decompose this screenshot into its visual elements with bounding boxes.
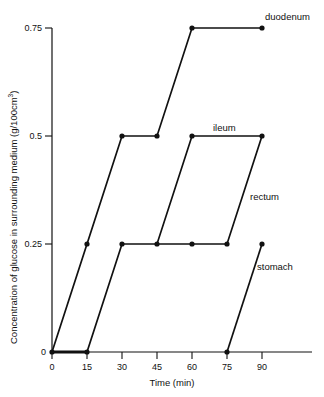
marker-stomach [224,349,229,354]
y-axis-title-tail: ) [8,91,19,94]
x-tick-label-45: 45 [152,362,162,372]
series-label-ileum: ileum [213,122,236,133]
y-axis-title: Concentration of glucose in surrounding … [7,91,19,344]
x-axis-title: Time (min) [149,377,194,388]
marker-duodenum [189,25,194,30]
marker-stomach [259,241,264,246]
marker-ileum [189,133,194,138]
y-tick-label-0: 0 [41,347,46,357]
y-tick-label-0.25: 0.25 [24,239,42,249]
x-tick-label-30: 30 [117,362,127,372]
marker-ileum [119,241,124,246]
x-tick-label-15: 15 [82,362,92,372]
series-label-duodenum: duodenum [265,11,310,22]
series-label-stomach: stomach [257,261,293,272]
marker-rectum [224,241,229,246]
chart-plot-area: 0.75 0.5 0.25 0 0 15 30 45 60 75 90 duod… [0,0,324,397]
marker-ileum [154,241,159,246]
marker-duodenum [49,349,54,354]
x-tick-label-75: 75 [222,362,232,372]
marker-duodenum [154,133,159,138]
marker-ileum [84,349,89,354]
chart-container: 0.75 0.5 0.25 0 0 15 30 45 60 75 90 duod… [0,0,324,397]
series-label-rectum: rectum [250,191,279,202]
x-tick-label-0: 0 [49,362,54,372]
series-line-duodenum [52,28,262,352]
y-axis-title-main: Concentration of glucose in surrounding … [8,97,19,344]
y-tick-label-0.5: 0.5 [29,131,42,141]
x-tick-label-90: 90 [257,362,267,372]
marker-rectum [189,241,194,246]
marker-duodenum [84,241,89,246]
y-tick-label-0.75: 0.75 [24,23,42,33]
series-line-rectum [157,136,262,244]
marker-ileum [259,133,264,138]
marker-duodenum [119,133,124,138]
x-tick-label-60: 60 [187,362,197,372]
marker-duodenum [259,25,264,30]
